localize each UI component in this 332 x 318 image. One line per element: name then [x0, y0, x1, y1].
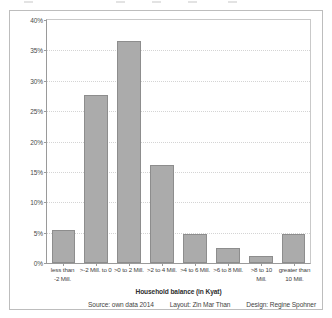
x-axis-tick-label-line: 10 Mill. [278, 275, 311, 284]
top-clipped-artifact [0, 0, 332, 9]
x-axis-tick-label: >8 to 10 Mill. [245, 266, 278, 283]
x-axis-tick-label-line: >4 to 6 Mill. [179, 266, 212, 275]
x-axis-tick-label-line: >8 to 10 Mill. [245, 266, 278, 283]
x-axis-tick-label-line: >-2 Mill. to 0 [79, 266, 112, 275]
bar[interactable] [150, 165, 174, 263]
y-axis-tick-label: 10% [30, 199, 43, 206]
y-axis-tick-label: 15% [30, 168, 43, 175]
bar-slot [179, 20, 212, 263]
y-axis-tick-label: 30% [30, 77, 43, 84]
bar[interactable] [52, 230, 76, 263]
gridline [47, 263, 310, 264]
x-axis-tick-label-line: >0 to 2 Mill. [112, 266, 145, 275]
bar-slot [80, 20, 113, 263]
artifact-tick [116, 1, 125, 3]
x-axis-tick-label-line: -2 Mill. [46, 275, 79, 284]
y-axis-tick-label: 40% [30, 17, 43, 24]
y-axis-tick-label: 5% [34, 229, 43, 236]
y-axis-tick-label: 25% [30, 108, 43, 115]
bar-slot [146, 20, 179, 263]
bar[interactable] [249, 256, 273, 263]
y-axis-tick-label: 20% [30, 138, 43, 145]
bar-slot [47, 20, 80, 263]
bar[interactable] [216, 248, 240, 263]
x-axis-tick-labels: less than-2 Mill.>-2 Mill. to 0>0 to 2 M… [46, 266, 311, 288]
artifact-tick [24, 1, 33, 3]
x-axis-tick-label-line: >6 to 8 Mill. [212, 266, 245, 275]
artifact-tick [228, 1, 237, 3]
bar-slot [113, 20, 146, 263]
bar[interactable] [117, 41, 141, 263]
bar[interactable] [282, 234, 306, 263]
y-axis-tick-mark [44, 263, 47, 264]
x-axis-tick-label: >6 to 8 Mill. [212, 266, 245, 275]
x-axis-tick-label: >2 to 4 Mill. [145, 266, 178, 275]
bar[interactable] [84, 95, 108, 263]
y-axis-tick-label: 0% [34, 260, 43, 267]
y-axis-tick-label: 35% [30, 47, 43, 54]
credits-line: Source: own data 2014 Layout: Zin Mar Th… [46, 299, 316, 310]
x-axis-tick-label: greater than10 Mill. [278, 266, 311, 283]
x-axis-tick-label-line: >2 to 4 Mill. [145, 266, 178, 275]
x-axis-tick-label: >4 to 6 Mill. [179, 266, 212, 275]
bar-slot [211, 20, 244, 263]
credit-source: Source: own data 2014 [88, 301, 154, 308]
bar-slot [244, 20, 277, 263]
bar-slot [277, 20, 310, 263]
x-axis-tick-label: less than-2 Mill. [46, 266, 79, 283]
x-axis-tick-label-line: less than [46, 266, 79, 275]
x-axis-tick-label: >0 to 2 Mill. [112, 266, 145, 275]
x-axis-tick-label-line: greater than [278, 266, 311, 275]
bar-series [47, 20, 310, 263]
chart-figure: 0%5%10%15%20%25%30%35%40% less than-2 Mi… [9, 10, 323, 310]
x-axis-tick-label: >-2 Mill. to 0 [79, 266, 112, 275]
plot-area: 0%5%10%15%20%25%30%35%40% [46, 19, 311, 264]
credit-design: Design: Regine Spohner [246, 301, 316, 308]
artifact-tick [188, 1, 197, 3]
credit-layout: Layout: Zin Mar Than [170, 301, 231, 308]
artifact-tick [152, 1, 161, 3]
x-axis-title: Household balance (in Kyat) [46, 288, 311, 295]
bar[interactable] [183, 234, 207, 263]
